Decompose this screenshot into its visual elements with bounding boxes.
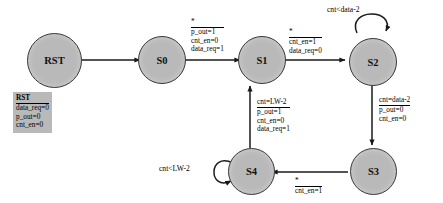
state-node-s4[interactable]: S4 bbox=[228, 148, 275, 195]
edge-output: cnt_en=1 bbox=[295, 187, 322, 196]
state-node-s0[interactable]: S0 bbox=[138, 36, 186, 84]
edge-output: data_req=0 bbox=[289, 47, 322, 56]
edge-label-s1-to-s2: * cnt_en=1 data_req=0 bbox=[289, 28, 322, 55]
state-node-s1[interactable]: S1 bbox=[238, 36, 286, 84]
state-node-s2[interactable]: S2 bbox=[349, 38, 397, 86]
reset-note-line: cnt_en=0 bbox=[16, 120, 43, 129]
edge-output: data_req=1 bbox=[257, 125, 290, 134]
reset-note-header: RST bbox=[16, 94, 49, 104]
edge-label-s2-to-s3: cnt=data-2 p_out=0 cnt_en=0 bbox=[379, 96, 410, 123]
reset-state-note: RST data_req=0 p_out=0 cnt_en=0 bbox=[13, 92, 52, 133]
state-label-s0: S0 bbox=[156, 55, 167, 66]
edge-label-s2-self-loop: cnt<data-2 bbox=[327, 5, 360, 14]
state-label-rst: RST bbox=[44, 55, 64, 66]
edge-output: data_req=1 bbox=[191, 45, 224, 54]
edge-label-s4-to-s1: cnt=LW-2 p_out=1 cnt_en=0 data_req=1 bbox=[257, 98, 290, 134]
edge-label-s4-self-loop: cnt<LW-2 bbox=[159, 164, 190, 173]
state-label-s4: S4 bbox=[246, 166, 257, 177]
edge-label-s0-to-s1: * p_out=1 cnt_en=0 data_req=1 bbox=[191, 18, 224, 54]
state-node-rst[interactable]: RST bbox=[27, 33, 82, 88]
edge-s2-self-loop bbox=[355, 14, 387, 33]
edge-output: cnt_en=0 bbox=[379, 115, 410, 124]
state-label-s1: S1 bbox=[256, 55, 267, 66]
state-node-s3[interactable]: S3 bbox=[350, 148, 397, 195]
state-label-s3: S3 bbox=[368, 166, 379, 177]
edge-label-s3-to-s4: * cnt_en=1 bbox=[295, 177, 322, 196]
fsm-diagram-canvas: RST S0 S1 S2 S3 S4 * p_out=1 cnt_en=0 da… bbox=[0, 0, 443, 203]
state-label-s2: S2 bbox=[367, 57, 378, 68]
